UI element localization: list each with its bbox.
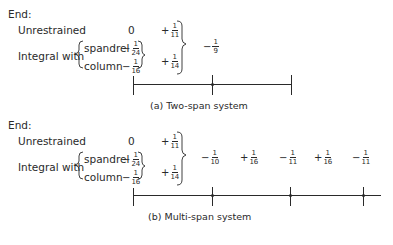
support-dot <box>362 194 365 197</box>
support-dot <box>211 194 214 197</box>
braces-b <box>0 0 393 245</box>
beam-line <box>133 195 381 196</box>
support-dot <box>289 194 292 197</box>
support-end <box>133 188 134 206</box>
caption-b: (b) Multi-span system <box>148 212 251 222</box>
